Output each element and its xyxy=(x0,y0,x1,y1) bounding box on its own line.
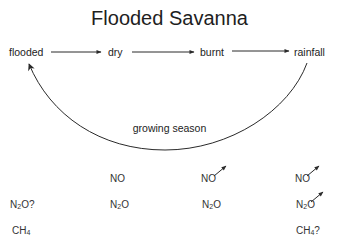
gas-dry-no: NO xyxy=(110,173,125,184)
growing-season-cycle-arc xyxy=(29,63,307,150)
gas-rainfall-no: NO xyxy=(295,173,310,184)
gas-rainfall-n2o: N2O xyxy=(296,199,315,210)
gas-rainfall-ch4: CH4? xyxy=(296,225,320,236)
gas-flooded-ch4: CH4 xyxy=(12,225,30,236)
gas-flooded-n2o: N2O? xyxy=(10,199,34,210)
gas-dry-n2o: N2O xyxy=(110,199,129,210)
gas-burnt-n2o: N2O xyxy=(202,199,221,210)
cycle-label-growing-season: growing season xyxy=(0,122,339,134)
gas-burnt-no: NO xyxy=(201,173,216,184)
